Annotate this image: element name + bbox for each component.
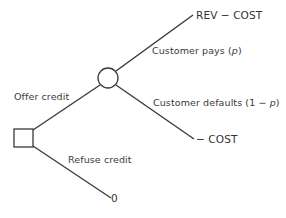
label-offer-credit: Offer credit (14, 92, 69, 102)
tree-edges (0, 0, 286, 218)
label-customer-pays: Customer pays (p) (152, 46, 242, 56)
label-customer-pays-suffix: ) (238, 45, 242, 56)
payoff-rev-minus-cost: REV − COST (196, 10, 262, 21)
label-customer-defaults-prefix: Customer defaults (1 − (153, 97, 270, 108)
payoff-minus-cost: − COST (196, 134, 237, 145)
label-customer-pays-prefix: Customer pays ( (152, 45, 232, 56)
label-customer-defaults-suffix: ) (276, 97, 280, 108)
label-customer-defaults: Customer defaults (1 − p) (153, 98, 280, 108)
edge-customer-defaults (116, 85, 194, 139)
decision-node-square (14, 129, 33, 147)
decision-tree-diagram: REV − COST − COST 0 Offer credit Refuse … (0, 0, 286, 218)
chance-node-circle (98, 68, 118, 88)
edge-customer-pays (116, 15, 193, 71)
payoff-zero: 0 (111, 193, 118, 204)
label-refuse-credit: Refuse credit (68, 155, 132, 165)
